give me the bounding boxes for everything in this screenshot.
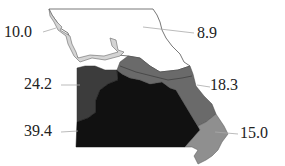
leader-line-39-4 [61, 131, 78, 132]
missouri-map: 10.0 8.9 24.2 18.3 39.4 15.0 [0, 0, 285, 166]
label-southeast: 15.0 [240, 125, 268, 141]
label-southwest-central: 39.4 [24, 123, 52, 139]
label-north: 8.9 [197, 25, 217, 41]
label-west: 24.2 [24, 76, 52, 92]
leader-line-10 [43, 28, 56, 32]
label-east-central: 18.3 [210, 77, 238, 93]
leader-line-18-3 [197, 85, 210, 87]
label-northwest-river: 10.0 [4, 24, 32, 40]
